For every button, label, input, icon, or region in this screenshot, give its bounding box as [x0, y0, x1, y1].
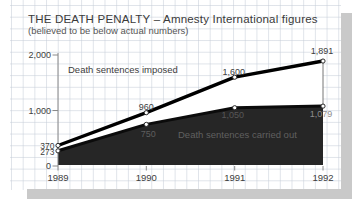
data-point-marker: [144, 111, 148, 115]
chart-subtitle: (believed to be below actual numbers): [28, 25, 189, 36]
point-label-carried-out: 1,050: [221, 110, 244, 120]
x-tick-label: 1991: [224, 172, 245, 183]
data-point-marker: [56, 143, 60, 147]
data-point-marker: [233, 75, 237, 79]
data-point-marker: [233, 106, 237, 110]
data-point-marker: [144, 122, 148, 126]
x-tick-label: 1989: [47, 172, 68, 183]
y-tick-label: 1,000: [28, 106, 51, 116]
x-tick-label: 1990: [136, 172, 157, 183]
point-label-carried-out: 273: [40, 147, 54, 157]
y-tick-label: 0: [46, 161, 51, 171]
point-label-carried-out: 750: [141, 129, 156, 139]
point-label-carried-out: 1,079: [310, 109, 333, 119]
x-tick-label: 1992: [312, 172, 333, 183]
point-label-imposed: 1,891: [311, 46, 334, 56]
data-point-marker: [321, 104, 325, 108]
data-point-marker: [321, 59, 325, 63]
series-label-carried-out: Death sentences carried out: [178, 129, 297, 140]
data-point-marker: [56, 149, 60, 153]
figure: 01,0002,00019891990199119923709601,6001,…: [0, 0, 362, 207]
chart-title: THE DEATH PENALTY – Amnesty Internationa…: [28, 13, 318, 25]
y-tick-label: 2,000: [28, 50, 51, 60]
point-label-imposed: 960: [139, 102, 154, 112]
series-label-imposed: Death sentences imposed: [68, 64, 178, 75]
